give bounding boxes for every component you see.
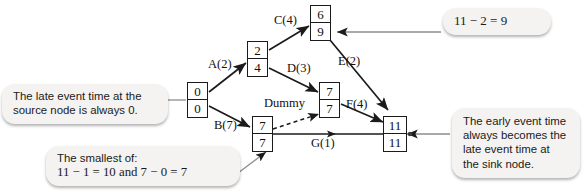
- callout-early-sink-line1: The early event time: [463, 114, 569, 128]
- leader-early-sink-dot: [408, 132, 412, 136]
- callout-late-source-line2: source node is always 0.: [13, 104, 157, 118]
- node-b-end-late: 7: [253, 134, 272, 151]
- callout-subtraction: 11 − 2 = 9: [443, 8, 551, 35]
- node-d-end-late: 7: [320, 100, 339, 117]
- node-a-end-early: 2: [248, 42, 267, 59]
- callout-early-sink-line4: the sink node.: [463, 157, 569, 171]
- callout-late-source-line1: The late event time at the: [13, 90, 157, 104]
- leader-smallest: [238, 152, 266, 173]
- edge-label-e: E(2): [338, 54, 360, 69]
- node-b-end-early: 7: [253, 117, 272, 134]
- edge-label-b: B(7): [214, 118, 237, 133]
- node-d-end-early: 7: [320, 83, 339, 100]
- edge-label-g: G(1): [311, 136, 335, 151]
- edge-dummy: [273, 114, 319, 129]
- edge-label-d: D(3): [287, 61, 311, 76]
- node-c-end[interactable]: 6 9: [310, 5, 331, 41]
- node-sink-early: 11: [384, 117, 406, 134]
- node-sink[interactable]: 11 11: [383, 116, 407, 152]
- edge-label-dummy: Dummy: [264, 96, 305, 111]
- callout-early-event-sink: The early event time always becomes the …: [452, 108, 580, 178]
- node-source[interactable]: 0 0: [187, 82, 208, 118]
- node-a-end[interactable]: 2 4: [247, 41, 268, 77]
- node-a-end-late: 4: [248, 59, 267, 76]
- node-c-end-early: 6: [311, 6, 330, 23]
- edge-label-f: F(4): [346, 97, 368, 112]
- edge-c: [269, 26, 309, 50]
- node-sink-late: 11: [384, 134, 406, 151]
- node-c-end-late: 9: [311, 23, 330, 40]
- node-source-early: 0: [188, 83, 207, 100]
- callout-smallest-line2: 11 − 1 = 10 and 7 − 0 = 7: [57, 166, 229, 180]
- callout-early-sink-line2: always becomes the: [463, 128, 569, 142]
- network-diagram-page: 0 0 2 4 6 9 7 7 7 7 11 11 A(2) B(7) C(4)…: [0, 0, 583, 192]
- callout-late-event-source: The late event time at the source node i…: [2, 84, 168, 124]
- edge-label-c: C(4): [274, 13, 297, 28]
- callout-early-sink-line3: late event time at: [463, 142, 569, 156]
- edge-label-a: A(2): [208, 57, 232, 72]
- node-source-late: 0: [188, 100, 207, 117]
- callout-smallest-of: The smallest of: 11 − 1 = 10 and 7 − 0 =…: [46, 146, 240, 186]
- node-b-end[interactable]: 7 7: [252, 116, 273, 152]
- callout-smallest-line1: The smallest of:: [57, 152, 229, 166]
- node-d-end[interactable]: 7 7: [319, 82, 340, 118]
- callout-subtract-line1: 11 − 2 = 9: [454, 14, 540, 28]
